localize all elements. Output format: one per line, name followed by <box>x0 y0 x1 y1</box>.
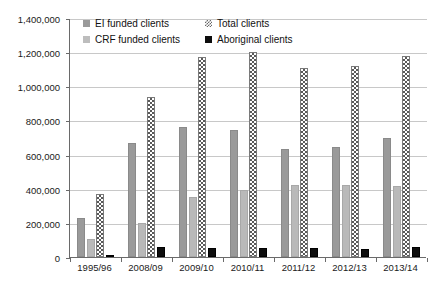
bar-total-2008-09 <box>147 97 155 257</box>
bar-crf-funded-2010-11 <box>240 190 248 257</box>
bar-ei-funded-2011-12 <box>281 149 289 257</box>
grouped-bar-chart: 1,400,0001,200,0001,000,000800,000600,00… <box>0 0 431 291</box>
x-tick-label-2011-12: 2011/12 <box>282 262 316 273</box>
bar-ei-funded-2013-14 <box>383 138 391 258</box>
bar-crf-funded-2013-14 <box>393 186 401 257</box>
x-tick-label-2012-13: 2012/13 <box>332 262 366 273</box>
y-tick-label: 1,200,000 <box>18 48 60 59</box>
y-tick-label: 1,400,000 <box>18 14 60 25</box>
x-tick-label-2013-14: 2013/14 <box>383 262 417 273</box>
plot-area <box>69 19 426 258</box>
bar-ei-funded-1995-96 <box>77 218 85 257</box>
bar-ei-funded-2010-11 <box>230 130 238 257</box>
bar-total-2010-11 <box>249 52 257 257</box>
bar-crf-funded-2008-09 <box>138 223 146 257</box>
legend-label: Aboriginal clients <box>217 34 293 45</box>
x-tick-mark <box>427 258 428 262</box>
x-axis-labels: 1995/962008/092009/102010/112011/122012/… <box>69 262 426 282</box>
aboriginal-swatch-icon <box>205 36 212 43</box>
y-tick-mark <box>66 190 70 191</box>
y-tick-label: 400,000 <box>26 184 60 195</box>
y-tick-label: 600,000 <box>26 150 60 161</box>
bar-ei-funded-2008-09 <box>128 143 136 257</box>
legend-label: EI funded clients <box>95 18 169 29</box>
bar-total-2011-12 <box>300 68 308 257</box>
y-tick-mark <box>66 19 70 20</box>
bar-total-1995-96 <box>96 194 104 257</box>
legend-label: Total clients <box>217 18 269 29</box>
bar-total-2013-14 <box>402 56 410 257</box>
y-tick-mark <box>66 121 70 122</box>
ei-swatch-icon <box>83 20 90 27</box>
y-tick-mark <box>66 224 70 225</box>
bar-crf-funded-1995-96 <box>87 239 95 257</box>
legend-item-aboriginal[interactable]: Aboriginal clients <box>205 34 332 45</box>
bar-crf-funded-2011-12 <box>291 185 299 257</box>
bar-crf-funded-2012-13 <box>342 185 350 257</box>
legend-item-total[interactable]: Total clients <box>205 18 332 29</box>
crf-swatch-icon <box>83 36 90 43</box>
bar-aboriginal-2010-11 <box>259 248 267 257</box>
bar-ei-funded-2012-13 <box>332 147 340 257</box>
x-tick-label-2010-11: 2010/11 <box>231 262 265 273</box>
y-tick-mark <box>66 53 70 54</box>
x-tick-label-2009-10: 2009/10 <box>179 262 213 273</box>
bar-total-2009-10 <box>198 57 206 257</box>
y-tick-label: 1,000,000 <box>18 82 60 93</box>
y-axis-labels: 1,400,0001,200,0001,000,000800,000600,00… <box>0 0 66 291</box>
bar-total-2012-13 <box>351 66 359 257</box>
bar-aboriginal-2009-10 <box>208 248 216 257</box>
legend-item-crf[interactable]: CRF funded clients <box>83 34 205 45</box>
bar-aboriginal-2008-09 <box>157 247 165 257</box>
bar-ei-funded-2009-10 <box>179 127 187 257</box>
bar-aboriginal-2012-13 <box>361 249 369 257</box>
legend-label: CRF funded clients <box>95 34 180 45</box>
chart-legend: EI funded clientsTotal clientsCRF funded… <box>83 15 332 48</box>
y-tick-label: 800,000 <box>26 116 60 127</box>
bar-aboriginal-2013-14 <box>412 247 420 257</box>
bar-crf-funded-2009-10 <box>189 197 197 257</box>
y-tick-label: 0 <box>55 253 60 264</box>
total-swatch-icon <box>205 20 212 27</box>
legend-item-ei[interactable]: EI funded clients <box>83 18 205 29</box>
y-tick-mark <box>66 156 70 157</box>
bar-aboriginal-1995-96 <box>106 255 114 257</box>
y-tick-mark <box>66 87 70 88</box>
x-tick-label-1995-96: 1995/96 <box>77 262 111 273</box>
y-tick-label: 200,000 <box>26 218 60 229</box>
x-tick-label-2008-09: 2008/09 <box>128 262 162 273</box>
bar-aboriginal-2011-12 <box>310 248 318 257</box>
